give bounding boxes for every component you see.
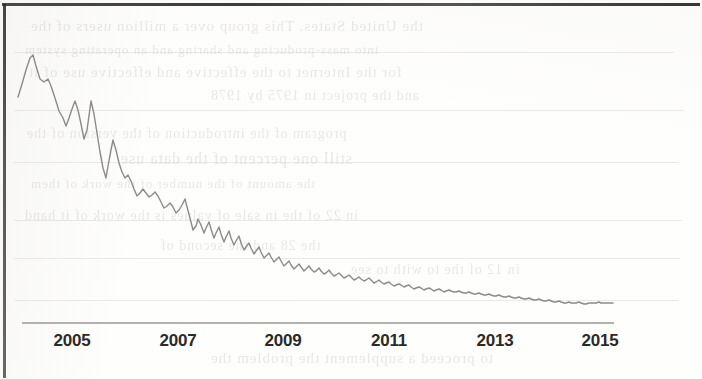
chart-svg xyxy=(0,0,702,379)
x-axis-tick-label-2015: 2015 xyxy=(565,331,635,351)
x-axis-tick-label-2011: 2011 xyxy=(354,331,424,351)
x-axis-tick-label-2009: 2009 xyxy=(248,331,318,351)
x-axis-tick-label-2005: 2005 xyxy=(37,331,107,351)
line-chart xyxy=(0,0,702,379)
x-axis-tick-label-2007: 2007 xyxy=(143,331,213,351)
page-border-left xyxy=(3,4,6,378)
scanned-page: the United States. This group over a mil… xyxy=(0,0,702,379)
x-axis-tick-label-2013: 2013 xyxy=(460,331,530,351)
page-border-top xyxy=(2,3,700,6)
data-series-line xyxy=(18,55,613,304)
